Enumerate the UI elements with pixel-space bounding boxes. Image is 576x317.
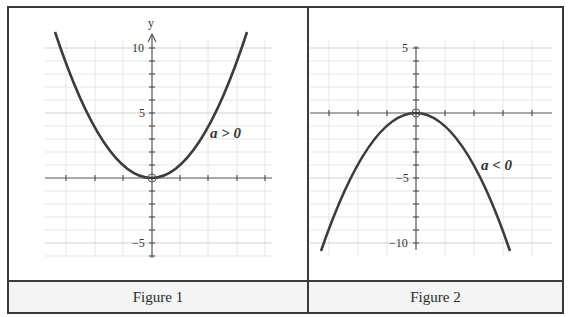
figure-2-grid bbox=[310, 40, 552, 256]
figure-1-graph: y 10 5 −5 a > 0 bbox=[45, 16, 272, 258]
figure-1-y-axis-label: y bbox=[148, 16, 154, 30]
figure-1-grid bbox=[45, 40, 272, 256]
graphs: y 10 5 −5 a > 0 5 −5 −10 a bbox=[0, 0, 576, 317]
figure-2-ytick-neg10: −10 bbox=[389, 236, 408, 250]
figure-1-parabola bbox=[55, 32, 247, 178]
figure-2-ytick-neg5: −5 bbox=[396, 171, 409, 185]
figure-2-ytick-5: 5 bbox=[402, 41, 408, 55]
figure-1-ytick-5: 5 bbox=[139, 106, 145, 120]
figure-1-annotation: a > 0 bbox=[210, 125, 242, 141]
figure-1-caption: Figure 1 bbox=[9, 282, 307, 312]
figure-2-caption: Figure 2 bbox=[309, 282, 562, 312]
figure-2-annotation: a < 0 bbox=[481, 157, 513, 173]
figure-1-axes bbox=[45, 34, 272, 258]
figure-2-graph: 5 −5 −10 a < 0 bbox=[310, 40, 552, 256]
figure-1-ytick-10: 10 bbox=[132, 41, 144, 55]
figure-2-axes bbox=[310, 46, 552, 250]
figure-1-ytick-neg5: −5 bbox=[132, 236, 145, 250]
